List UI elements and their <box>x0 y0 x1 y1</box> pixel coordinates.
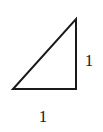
triangle-outline <box>13 19 76 89</box>
vertical-leg-length-label: 1 <box>82 52 96 69</box>
triangle-figure: 1 1 <box>0 0 103 132</box>
horizontal-leg-length-label: 1 <box>36 108 50 125</box>
